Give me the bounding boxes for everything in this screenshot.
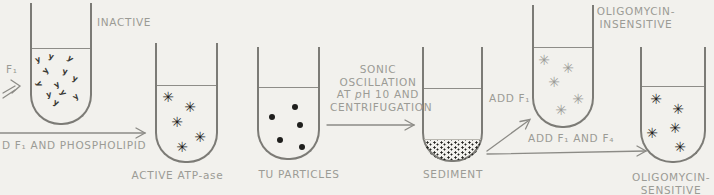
label-add-f1-and-phospholipid: D F₁ AND PHOSPHOLIPID <box>2 139 146 152</box>
liquid-line <box>259 87 318 88</box>
liquid-line <box>157 85 216 86</box>
liquid-line <box>534 47 592 48</box>
add-f1-f4-arrow <box>487 146 646 156</box>
add-f1-phospholipid-arrow <box>0 128 145 138</box>
tube-tu-particles <box>257 47 320 160</box>
label-f1: F₁ <box>6 63 18 76</box>
process-line-1: SONIC <box>330 63 426 76</box>
label-oligomycin-insensitive: OLIGOMYCIN- INSENSITIVE <box>594 5 678 30</box>
tube-oligomycin-insensitive <box>532 5 594 128</box>
label-sonic-oscillation: SONIC OSCILLATION AT pH 10 AND CENTRIFUG… <box>330 63 426 113</box>
sediment-speckles <box>424 139 481 160</box>
diagram-canvas: yyyyyyyyyyyy✳✳✳✳✳✳✳✳✳✳✳✳✳✳✳ F₁ INACTIVE … <box>0 0 714 195</box>
liquid-line <box>32 48 90 49</box>
label-active-atpase: ACTIVE ATP-ase <box>130 169 225 182</box>
label-tu-particles: TU PARTICLES <box>256 168 342 181</box>
label-inactive: INACTIVE <box>97 16 151 29</box>
liquid-line <box>642 86 704 87</box>
liquid-line <box>424 88 481 89</box>
label-add-f1: ADD F₁ <box>489 92 530 105</box>
f1-double-arrow <box>3 80 20 98</box>
tube-oligomycin-sensitive <box>640 47 706 163</box>
process-line-2: OSCILLATION <box>330 76 426 89</box>
centrifugation-arrow <box>327 120 414 130</box>
tube-inactive <box>30 3 92 125</box>
label-oligomycin-sensitive: OLIGOMYCIN- SENSITIVE <box>632 171 710 195</box>
process-line-3: AT pH 10 AND <box>330 88 426 101</box>
label-add-f1-and-f4: ADD F₁ AND F₄ <box>528 132 614 145</box>
process-line-4: CENTRIFUGATION <box>330 101 426 114</box>
add-f1-arrow <box>487 120 530 152</box>
tube-active-atpase <box>155 43 218 163</box>
label-sediment: SEDIMENT <box>420 168 486 181</box>
